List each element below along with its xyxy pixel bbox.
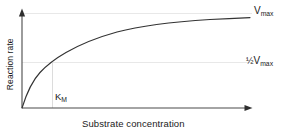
half-fraction-text: ½ [246,56,254,66]
vmax-subscript-text: max [261,10,274,17]
half-vmax-label: ½Vmax [246,56,273,66]
x-axis-arrowhead [245,105,253,111]
half-vmax-subscript-text: max [260,60,273,67]
km-subscript-text: M [61,96,67,103]
y-axis-arrowhead [19,9,25,17]
km-label: KM [55,92,67,102]
y-axis-label: Reaction rate [6,33,15,95]
x-axis-label: Substrate concentration [82,119,185,129]
plot-area [0,0,299,135]
vmax-label: Vmax [254,6,274,16]
vmax-base-text: V [254,5,261,16]
michaelis-menten-chart: Reaction rate Substrate concentration Vm… [0,0,299,135]
